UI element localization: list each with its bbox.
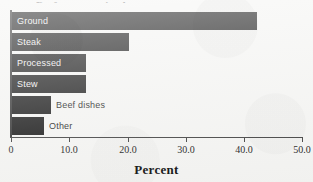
x-axis-tick bbox=[128, 137, 129, 142]
bar-other bbox=[12, 117, 44, 135]
x-axis-tick bbox=[244, 137, 245, 142]
x-axis-tick bbox=[69, 137, 70, 142]
x-axis-tick-label: 30.0 bbox=[177, 144, 195, 156]
bar-beef-dishes bbox=[12, 96, 51, 114]
x-axis-tick-label: 40.0 bbox=[235, 144, 253, 156]
bar-series: Ground Steak Processed Stew Beef dishes bbox=[0, 0, 313, 137]
bar-label-steak: Steak bbox=[17, 33, 41, 51]
bar-label-ground: Ground bbox=[17, 12, 48, 30]
bar-label-stew: Stew bbox=[17, 75, 38, 93]
x-axis-tick-label: 10.0 bbox=[60, 144, 78, 156]
chart-figure: Beef consumption by cut Ground Steak Pro… bbox=[0, 0, 313, 182]
plot-area: Ground Steak Processed Stew Beef dishes bbox=[0, 0, 313, 182]
x-axis-tick-label: 20.0 bbox=[119, 144, 137, 156]
x-axis-tick bbox=[11, 137, 12, 142]
x-axis-title: Percent bbox=[0, 162, 313, 177]
bar-label-other: Other bbox=[49, 117, 73, 135]
bar-ground bbox=[12, 12, 257, 30]
x-axis-tick bbox=[186, 137, 187, 142]
bar-label-processed: Processed bbox=[17, 54, 61, 72]
x-axis-tick-label: 0 bbox=[9, 144, 14, 156]
x-axis-tick-label: 50.0 bbox=[293, 144, 311, 156]
bar-label-beef-dishes: Beef dishes bbox=[56, 96, 105, 114]
x-axis-tick bbox=[302, 137, 303, 142]
x-axis-line bbox=[10, 137, 302, 138]
